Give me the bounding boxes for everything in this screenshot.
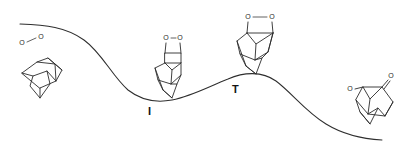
oxygen-atom-label: O — [388, 72, 394, 79]
energy-profile-figure: O O O O — [0, 0, 410, 148]
product-cage-skeleton — [356, 87, 393, 124]
carbon-oxygen-bond — [382, 80, 388, 87]
carbon-oxygen-bond-2 — [384, 81, 390, 89]
structure-product: O O — [0, 0, 410, 148]
transition-state-label: T — [232, 84, 239, 95]
product-carbonyl-groups: O O — [347, 72, 394, 92]
oxygen-atom-label: O — [347, 85, 353, 92]
intermediate-label: I — [148, 106, 151, 117]
